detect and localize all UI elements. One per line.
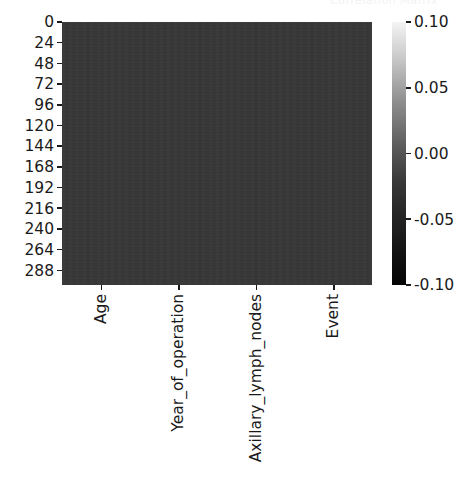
x-axis-tick-label: Axillary_lymph_nodes [249, 294, 265, 462]
y-axis-tick-label: 144 [24, 139, 57, 155]
colorbar: 0.100.050.00-0.05-0.10 [392, 22, 406, 285]
y-axis-tick-label: 240 [24, 222, 57, 238]
y-axis-tick-mark [57, 104, 62, 106]
figure-title-remnant: Correlation Matrix [330, 0, 470, 6]
y-axis-tick-mark [57, 63, 62, 65]
colorbar-tick-label: 0.00 [411, 146, 449, 162]
x-axis-tick-mark [333, 285, 335, 290]
y-axis-tick-label: 72 [34, 77, 57, 93]
colorbar-tick-label: 0.10 [411, 15, 449, 31]
colorbar-gradient [392, 22, 406, 285]
y-axis-tick-mark [57, 166, 62, 168]
y-axis-tick-label: 48 [34, 56, 57, 72]
x-axis-tick-label: Year_of_operation [171, 294, 187, 432]
x-axis-tick-label: Age [94, 294, 110, 324]
x-axis-tick: Event [333, 285, 335, 290]
y-axis-tick-label: 0 [44, 15, 57, 31]
y-axis-tick-label: 96 [34, 98, 57, 114]
heatmap-image [62, 22, 372, 285]
y-axis-tick-label: 288 [24, 263, 57, 279]
y-axis-tick-mark [57, 145, 62, 147]
y-axis-tick-mark [57, 207, 62, 209]
y-axis-tick-mark [57, 125, 62, 127]
y-axis-tick-label: 168 [24, 160, 57, 176]
y-axis-tick-mark [57, 83, 62, 85]
heatmap-figure: Correlation Matrix 024487296120144168192… [0, 0, 473, 495]
y-axis-tick-label: 216 [24, 201, 57, 217]
x-axis-tick: Year_of_operation [178, 285, 180, 290]
x-axis-tick: Age [101, 285, 103, 290]
y-axis: 024487296120144168192216240264288 [0, 22, 62, 285]
x-axis: AgeYear_of_operationAxillary_lymph_nodes… [62, 285, 372, 495]
y-axis-tick-label: 120 [24, 118, 57, 134]
y-axis-tick-mark [57, 249, 62, 251]
colorbar-tick-label: 0.05 [411, 81, 449, 97]
x-axis-tick-mark [101, 285, 103, 290]
y-axis-tick-mark [57, 270, 62, 272]
x-axis-tick-mark [256, 285, 258, 290]
x-axis-tick-label: Event [326, 294, 342, 338]
y-axis-tick-label: 192 [24, 180, 57, 196]
x-axis-tick-mark [178, 285, 180, 290]
y-axis-tick-mark [57, 187, 62, 189]
y-axis-tick-mark [57, 228, 62, 230]
y-axis-tick-mark [57, 42, 62, 44]
colorbar-tick-label: -0.05 [411, 212, 454, 228]
y-axis-tick-label: 24 [34, 35, 57, 51]
x-axis-tick: Axillary_lymph_nodes [256, 285, 258, 290]
heatmap-plot-area [62, 22, 372, 285]
y-axis-tick-label: 264 [24, 242, 57, 258]
y-axis-tick-mark [57, 21, 62, 23]
colorbar-tick-label: -0.10 [411, 278, 454, 294]
